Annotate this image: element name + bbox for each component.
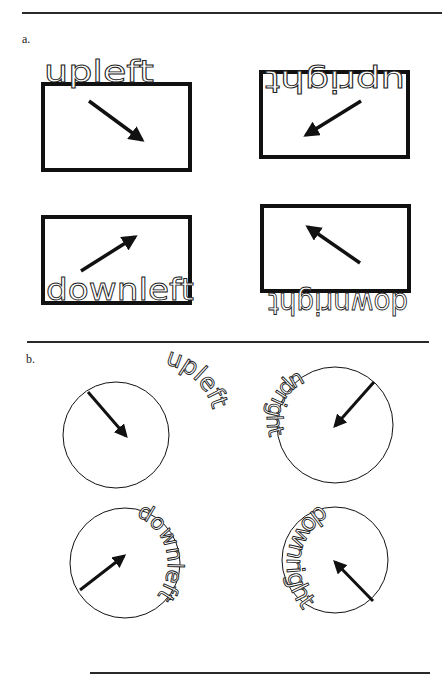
panel-b-upleft: upleft: [63, 343, 234, 488]
word-upleft: upleft: [163, 343, 234, 412]
panel-a-downleft: downleft: [43, 217, 194, 307]
panel-a-upleft: upleft: [43, 53, 190, 170]
word-upleft: upleft: [44, 53, 154, 89]
box: [262, 206, 409, 291]
panel-b-downleft: downleft: [70, 498, 188, 618]
figure-canvas: upleft upright downleft downright upleft…: [0, 0, 443, 674]
circle: [63, 382, 169, 488]
word-downright: downright: [268, 286, 408, 321]
box: [43, 84, 190, 170]
word-downleft: downleft: [46, 271, 194, 307]
panel-a-upright: upright: [261, 64, 408, 157]
panel-b-upright: upright: [262, 367, 393, 483]
word-upright: upright: [265, 64, 405, 99]
panel-b-downright: downright: [281, 500, 388, 614]
panel-a-downright: downright: [262, 206, 409, 321]
